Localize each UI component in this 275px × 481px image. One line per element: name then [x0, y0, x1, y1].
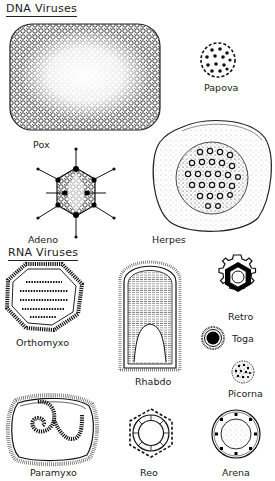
arena-virus-illustration: [210, 408, 262, 460]
label-toga: Toga: [232, 333, 254, 344]
label-paramyxo: Paramyxo: [30, 467, 77, 478]
label-orthomyxo: Orthomyxo: [16, 337, 69, 348]
label-adeno: Adeno: [28, 234, 58, 245]
dna-viruses-heading: DNA Viruses: [6, 2, 77, 17]
rhabdo-virus-illustration: [116, 252, 184, 374]
label-reo: Reo: [140, 467, 158, 478]
label-arena: Arena: [222, 467, 250, 478]
adeno-virus-illustration: [28, 148, 124, 238]
papova-virus-illustration: [198, 40, 238, 80]
label-retro: Retro: [228, 311, 253, 322]
rna-viruses-heading: RNA Viruses: [8, 246, 78, 261]
label-herpes: Herpes: [152, 234, 186, 245]
label-rhabdo: Rhabdo: [135, 376, 171, 387]
paramyxo-virus-illustration: [4, 394, 100, 466]
toga-virus-illustration: [201, 326, 225, 350]
pox-virus-illustration: [8, 22, 163, 134]
orthomyxo-virus-illustration: [4, 262, 84, 332]
label-papova: Papova: [204, 82, 238, 93]
retro-virus-illustration: [212, 253, 264, 305]
reo-virus-illustration: [124, 406, 178, 460]
picorna-virus-illustration: [231, 360, 255, 384]
label-picorna: Picorna: [228, 388, 263, 399]
herpes-virus-illustration: [150, 118, 274, 234]
